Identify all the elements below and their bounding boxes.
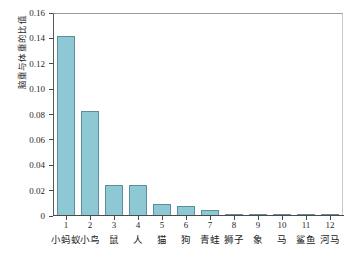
- y-tick: 0: [0, 211, 53, 221]
- x-tick-label: 5: [149, 220, 175, 231]
- bar: [105, 185, 123, 216]
- y-tick: 0.10: [0, 84, 53, 94]
- y-tick-label: 0.06: [29, 135, 45, 145]
- x-tick-label: 6: [173, 220, 199, 231]
- y-tick-label: 0.14: [29, 33, 45, 43]
- y-tick: 0.16: [0, 8, 53, 18]
- y-tick-label: 0.04: [29, 160, 45, 170]
- y-tick: 0.04: [0, 160, 53, 170]
- x-tick-label: 1: [53, 220, 79, 231]
- x-tick-label: 4: [125, 220, 151, 231]
- x-tick-label: 2: [77, 220, 103, 231]
- x-tick-label: 12: [317, 220, 343, 231]
- bar: [129, 185, 147, 216]
- y-tick-label: 0.16: [29, 8, 45, 18]
- y-tick: 0.08: [0, 110, 53, 120]
- y-tick: 0.14: [0, 33, 53, 43]
- y-tick-label: 0.12: [29, 59, 45, 69]
- x-tick-label: 7: [197, 220, 223, 231]
- y-tick-label: 0.08: [29, 110, 45, 120]
- bar: [57, 36, 75, 216]
- y-tick: 0.02: [0, 186, 53, 196]
- x-category-name: 河马: [310, 234, 349, 246]
- x-tick-label: 3: [101, 220, 127, 231]
- y-tick: 0.06: [0, 135, 53, 145]
- y-tick: 0.12: [0, 59, 53, 69]
- y-tick-label: 0: [41, 211, 46, 221]
- bar: [81, 111, 99, 216]
- x-tick-label: 10: [269, 220, 295, 231]
- y-tick-label: 0.02: [29, 186, 45, 196]
- x-tick-label: 9: [245, 220, 271, 231]
- bars-layer: [53, 13, 343, 216]
- x-tick-label: 8: [221, 220, 247, 231]
- bar-chart: 脑重与体重的比值 00.020.040.060.080.100.120.140.…: [0, 0, 349, 256]
- y-tick-label: 0.10: [29, 84, 45, 94]
- x-tick-label: 11: [293, 220, 319, 231]
- x-axis-baseline: [53, 215, 344, 216]
